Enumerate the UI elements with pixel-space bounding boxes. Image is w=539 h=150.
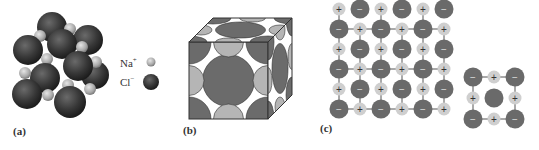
- svg-text:+: +: [378, 84, 384, 95]
- svg-text:−: −: [357, 44, 363, 55]
- svg-text:−: −: [441, 84, 447, 95]
- svg-text:−: −: [420, 104, 426, 115]
- anion-cl: −: [435, 0, 454, 19]
- cation-na: +: [354, 63, 367, 76]
- cation-na: +: [333, 43, 346, 56]
- cation-na: +: [396, 103, 409, 116]
- cation-na: +: [396, 63, 409, 76]
- anion-cl: −: [464, 68, 483, 87]
- svg-text:+: +: [378, 44, 384, 55]
- svg-text:+: +: [399, 104, 405, 115]
- anion-cl: −: [506, 68, 525, 87]
- svg-text:−: −: [441, 4, 447, 15]
- anion-cl: −: [414, 100, 433, 119]
- cation-na: +: [488, 113, 501, 126]
- anion-cl: −: [330, 60, 349, 79]
- svg-text:−: −: [399, 4, 405, 15]
- svg-text:+: +: [491, 72, 497, 83]
- svg-text:+: +: [441, 24, 447, 35]
- svg-text:+: +: [399, 24, 405, 35]
- cation-na: +: [333, 3, 346, 16]
- cation-na: +: [417, 3, 430, 16]
- svg-text:−: −: [470, 114, 476, 125]
- svg-text:+: +: [470, 93, 476, 104]
- cation-na: +: [438, 63, 451, 76]
- cation-na: +: [417, 83, 430, 96]
- svg-text:−: −: [512, 72, 518, 83]
- svg-text:+: +: [336, 84, 342, 95]
- svg-text:+: +: [336, 44, 342, 55]
- anion-cl: −: [351, 0, 370, 19]
- svg-text:+: +: [441, 64, 447, 75]
- svg-text:−: −: [357, 84, 363, 95]
- svg-text:−: −: [399, 84, 405, 95]
- svg-text:+: +: [420, 44, 426, 55]
- svg-text:−: −: [336, 104, 342, 115]
- cation-na: +: [333, 83, 346, 96]
- anion-cl: [485, 89, 504, 108]
- svg-text:+: +: [420, 4, 426, 15]
- svg-text:+: +: [420, 84, 426, 95]
- cation-na: +: [509, 92, 522, 105]
- svg-text:−: −: [441, 44, 447, 55]
- svg-text:−: −: [420, 64, 426, 75]
- svg-text:−: −: [336, 64, 342, 75]
- svg-text:+: +: [357, 64, 363, 75]
- anion-cl: −: [372, 100, 391, 119]
- cation-na: +: [467, 92, 480, 105]
- anion-cl: −: [330, 100, 349, 119]
- svg-text:+: +: [357, 104, 363, 115]
- cation-na: +: [354, 23, 367, 36]
- svg-text:+: +: [378, 4, 384, 15]
- anion-cl: −: [393, 0, 412, 19]
- anion-cl: −: [435, 40, 454, 59]
- panel-b-label: (b): [183, 124, 196, 136]
- svg-text:−: −: [378, 24, 384, 35]
- cation-na: +: [488, 71, 501, 84]
- svg-text:−: −: [512, 114, 518, 125]
- cation-na: +: [354, 103, 367, 116]
- anion-cl: −: [435, 80, 454, 99]
- cation-na: +: [438, 103, 451, 116]
- svg-text:−: −: [378, 104, 384, 115]
- anion-cl: −: [393, 80, 412, 99]
- svg-text:+: +: [399, 64, 405, 75]
- cation-na: +: [375, 3, 388, 16]
- cation-na: +: [396, 23, 409, 36]
- anion-cl: −: [372, 60, 391, 79]
- anion-cl: −: [351, 40, 370, 59]
- anion-cl: −: [372, 20, 391, 39]
- cation-na: +: [438, 23, 451, 36]
- panel-c-label: (c): [320, 122, 332, 134]
- anion-cl: −: [351, 80, 370, 99]
- anion-cl: −: [506, 110, 525, 129]
- cation-na: +: [375, 43, 388, 56]
- anion-cl: −: [464, 110, 483, 129]
- svg-text:+: +: [357, 24, 363, 35]
- svg-text:−: −: [399, 44, 405, 55]
- anion-cl: −: [414, 20, 433, 39]
- svg-text:−: −: [470, 72, 476, 83]
- svg-text:+: +: [512, 93, 518, 104]
- svg-text:+: +: [441, 104, 447, 115]
- cation-na: +: [375, 83, 388, 96]
- anion-cl: −: [330, 20, 349, 39]
- panel-c-2d-lattice: +−+−+−−+−+−++−+−+−−+−+−++−+−+−−+−+−+−+−+…: [0, 0, 539, 150]
- svg-text:−: −: [336, 24, 342, 35]
- svg-text:−: −: [357, 4, 363, 15]
- svg-text:+: +: [491, 114, 497, 125]
- panel-a-label: (a): [13, 125, 26, 137]
- anion-cl: −: [414, 60, 433, 79]
- svg-text:+: +: [336, 4, 342, 15]
- cation-na: +: [417, 43, 430, 56]
- svg-text:−: −: [420, 24, 426, 35]
- svg-text:−: −: [378, 64, 384, 75]
- anion-cl: −: [393, 40, 412, 59]
